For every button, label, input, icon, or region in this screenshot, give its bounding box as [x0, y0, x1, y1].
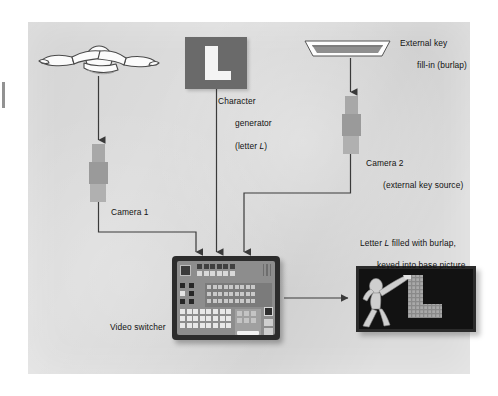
switcher-mix-row-3[interactable]: [207, 299, 255, 303]
camera-2-label: Camera 2 (external key source): [366, 158, 463, 192]
switcher-left-button-block[interactable]: [180, 283, 202, 307]
switcher-led-row-upper: [197, 264, 235, 269]
switcher-corner-display: [264, 307, 273, 316]
switcher-preview-screen: [180, 265, 191, 276]
switcher-corner-button-lower[interactable]: [264, 328, 273, 335]
figure-page: External key fill-in (burlap) Character …: [0, 0, 498, 396]
switcher-fader-buttons[interactable]: [237, 311, 256, 323]
character-generator-label: Character generator (letter L): [218, 96, 272, 152]
switcher-led-row-lower: [197, 271, 235, 276]
switcher-bus-row[interactable]: [180, 323, 236, 328]
switcher-crosspoint-bank[interactable]: [180, 309, 236, 330]
switcher-t-bar-handle[interactable]: [237, 331, 259, 335]
switcher-tick-marks: [263, 264, 272, 276]
switcher-corner-button-upper[interactable]: [264, 319, 273, 326]
camera-1-label: Camera 1: [111, 207, 149, 218]
switcher-fader-module[interactable]: [235, 309, 261, 335]
burlap-label: External key fill-in (burlap): [400, 38, 467, 72]
output-monitor: [356, 266, 476, 332]
switcher-bus-row[interactable]: [180, 316, 236, 321]
video-switcher-console[interactable]: [172, 256, 280, 340]
output-monitor-label: Letter L filled with burlap, keyed into …: [360, 238, 465, 272]
switcher-mix-row-2[interactable]: [207, 292, 255, 296]
video-switcher-label: Video switcher: [110, 322, 166, 333]
switcher-mix-bank[interactable]: [205, 283, 272, 307]
wire-camera2-to-switcher: [244, 154, 351, 252]
switcher-bus-row[interactable]: [180, 309, 236, 314]
switcher-mix-row-1[interactable]: [207, 285, 255, 289]
switcher-panel: [177, 261, 275, 335]
switcher-top-strip: [180, 264, 272, 282]
